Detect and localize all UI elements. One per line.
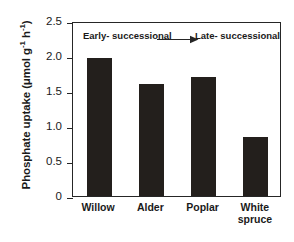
y-axis-tick-label: 0	[28, 191, 62, 202]
bar-white-spruce	[243, 137, 268, 196]
succession-arrow-icon	[157, 35, 199, 44]
phosphate-uptake-bar-chart: Phosphate uptake (μmol g-1 h-1) 2.52.01.…	[0, 0, 294, 242]
y-axis-tick-mark	[67, 163, 73, 164]
y-axis-tick-label: 1.5	[28, 86, 62, 97]
y-axis-tick-mark	[67, 198, 73, 199]
x-axis-tick-label: Alder	[124, 201, 176, 213]
y-axis-title-exp1: -1	[18, 41, 27, 48]
bar-willow	[87, 58, 112, 196]
y-axis-tick-label: 0.5	[28, 156, 62, 167]
plot-area: Early- successional Late- successional	[72, 22, 281, 197]
x-axis-tick-labels: WillowAlderPoplarWhite spruce	[72, 201, 281, 241]
y-axis-tick-mark	[67, 128, 73, 129]
bar-alder	[139, 84, 164, 196]
x-axis-tick-label: Poplar	[177, 201, 229, 213]
y-axis-tick-mark	[67, 93, 73, 94]
y-axis-tick-label: 2.0	[28, 51, 62, 62]
y-axis-title-exp2: -1	[18, 24, 27, 31]
x-axis-tick-label: Willow	[72, 201, 124, 213]
bar-poplar	[191, 77, 216, 196]
y-axis-tick-label: 2.5	[28, 16, 62, 27]
y-axis-tick-label: 1.0	[28, 121, 62, 132]
y-axis-tick-mark	[67, 23, 73, 24]
late-successional-annotation: Late- successional	[195, 31, 277, 42]
bar-series	[73, 23, 280, 196]
y-axis-tick-mark	[67, 58, 73, 59]
x-axis-tick-label: White spruce	[229, 201, 281, 225]
early-successional-annotation: Early- successional	[83, 31, 161, 42]
y-axis-tick-labels: 2.52.01.51.00.50	[28, 0, 62, 242]
